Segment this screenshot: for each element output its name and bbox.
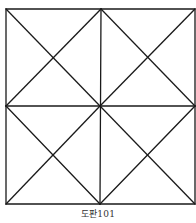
diagram-figure xyxy=(0,0,196,223)
figure-caption: 도판101 xyxy=(0,207,196,220)
